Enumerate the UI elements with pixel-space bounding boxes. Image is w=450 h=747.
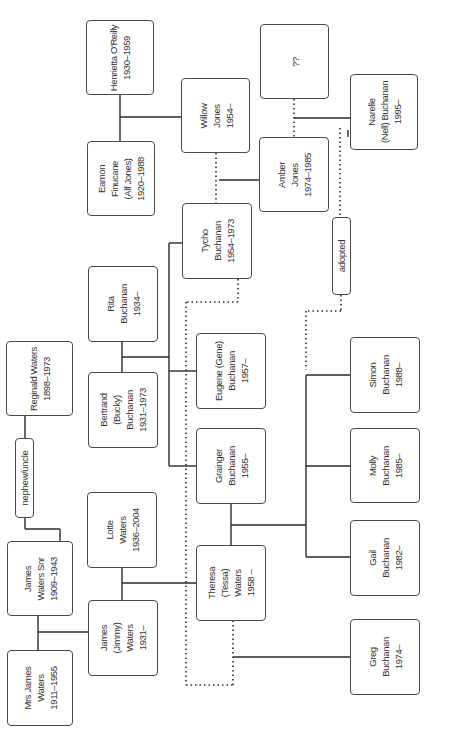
person-eugene-buchanan[interactable]: Eugene (Gene) Buchanan 1957– xyxy=(196,333,266,409)
person-eamon-finucane[interactable]: Eamon Finucane (Alf Jones) 1920–1988 xyxy=(87,141,155,216)
person-label: Greg Buchanan 1974– xyxy=(366,637,405,677)
person-bertrand-buchanan[interactable]: Bertrand (Bucky) Buchanan 1931–1973 xyxy=(88,372,158,448)
person-label: Molly Buchanan 1985– xyxy=(366,446,405,486)
person-lotte-waters[interactable]: Lotte Waters 1936–2004 xyxy=(87,492,157,568)
person-henrietta-oreilly[interactable]: Henrietta O'Reilly 1930–1959 xyxy=(86,20,154,95)
person-narelle-buchanan[interactable]: Narelle (Nell) Buchanan 1995– xyxy=(350,74,418,150)
person-label: ?? xyxy=(288,57,301,67)
person-label: James (Jimmy) Waters 1931– xyxy=(97,623,149,654)
person-label: Rita Buchanan 1934– xyxy=(104,284,143,324)
person-reginald-waters[interactable]: Reginald Waters 1898–1973 xyxy=(6,341,73,416)
person-label: Tycho Buchanan 1954–1973 xyxy=(198,219,237,263)
relation-label: adopted xyxy=(336,240,348,272)
person-label: Reginald Waters 1898–1973 xyxy=(27,347,53,411)
person-theresa-waters[interactable]: Theresa (Tessa) Waters 1958 – xyxy=(196,545,266,621)
person-label: Willow Jones 1954– xyxy=(196,103,235,128)
relation-nephew-uncle: nephew/uncle xyxy=(15,438,34,518)
person-label: Eamon Finucane (Alf Jones) 1920–1988 xyxy=(95,157,147,201)
person-label: James Waters Snr 1909–1943 xyxy=(21,557,60,601)
person-mrs-james-waters[interactable]: Mrs James Waters 1911–1955 xyxy=(7,650,73,726)
person-label: Gail Buchanan 1982– xyxy=(366,538,405,578)
person-simon-buchanan[interactable]: Simon Buchanan 1988– xyxy=(350,337,420,413)
person-grainger-buchanan[interactable]: Grainger Buchanan 1955– xyxy=(196,428,266,504)
person-willow-jones[interactable]: Willow Jones 1954– xyxy=(181,78,250,153)
person-james-jimmy-waters[interactable]: James (Jimmy) Waters 1931– xyxy=(88,600,158,676)
relation-adopted: adopted xyxy=(332,217,351,295)
person-label: Henrietta O'Reilly 1930–1959 xyxy=(107,24,133,90)
person-label: Amber Jones 1974–1985 xyxy=(275,153,314,197)
person-rita-buchanan[interactable]: Rita Buchanan 1934– xyxy=(88,266,158,342)
person-label: Lotte Waters 1936–2004 xyxy=(103,508,142,552)
person-tycho-buchanan[interactable]: Tycho Buchanan 1954–1973 xyxy=(182,203,252,279)
person-gail-buchanan[interactable]: Gail Buchanan 1982– xyxy=(350,520,420,596)
person-james-waters-snr[interactable]: James Waters Snr 1909–1943 xyxy=(7,541,73,616)
person-label: Grainger Buchanan 1955– xyxy=(212,446,251,486)
relation-label: nephew/uncle xyxy=(19,450,31,505)
person-molly-buchanan[interactable]: Molly Buchanan 1985– xyxy=(350,428,420,503)
person-unknown[interactable]: ?? xyxy=(260,24,329,99)
person-label: Narelle (Nell) Buchanan 1995– xyxy=(365,81,404,143)
person-label: Eugene (Gene) Buchanan 1957– xyxy=(212,341,251,401)
person-label: Simon Buchanan 1988– xyxy=(366,355,405,395)
person-label: Mrs James Waters 1911–1955 xyxy=(21,666,60,709)
person-label: Theresa (Tessa) Waters 1958 – xyxy=(205,567,257,599)
person-greg-buchanan[interactable]: Greg Buchanan 1974– xyxy=(350,619,420,695)
person-label: Bertrand (Bucky) Buchanan 1931–1973 xyxy=(97,388,149,432)
family-tree-diagram: Henrietta O'Reilly 1930–1959 Eamon Finuc… xyxy=(0,0,450,747)
person-amber-jones[interactable]: Amber Jones 1974–1985 xyxy=(259,137,329,212)
